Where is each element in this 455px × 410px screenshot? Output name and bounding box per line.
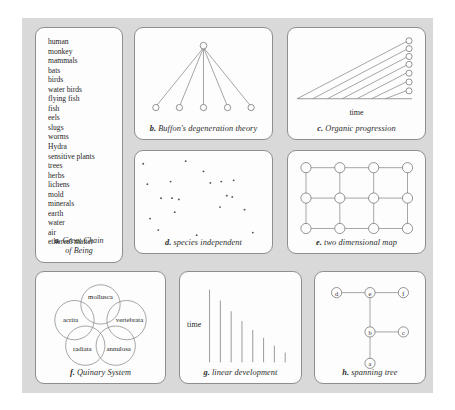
panel-d-species-independent: d.species independent <box>134 150 273 254</box>
tree-node-label-a: a <box>369 360 372 367</box>
scatter-point <box>233 179 235 181</box>
chain-list-item: minerals <box>48 199 122 209</box>
chain-list-item: sensitive plants <box>48 152 122 162</box>
panel-c-organic-progression: time c.Organic progression <box>287 27 426 140</box>
star-leaf-node <box>224 104 230 110</box>
lattice-node <box>369 223 379 233</box>
scatter-point <box>174 211 176 213</box>
lattice-node <box>402 223 412 233</box>
lattice-node <box>301 193 311 203</box>
chain-list-item: birds <box>48 75 122 85</box>
chain-list-item: human <box>48 37 122 47</box>
progression-node <box>406 38 412 44</box>
chain-list-item: mammals <box>48 56 122 66</box>
progression-node <box>406 88 412 94</box>
chain-list-item: earth <box>48 209 122 219</box>
chain-list-item: worms <box>48 132 122 142</box>
panel-g-linear-development: time g.linear development <box>179 271 302 384</box>
panel-e-caption-text: two dimensional map <box>324 238 397 247</box>
scatter-point <box>219 206 221 208</box>
scatter-point <box>226 195 228 197</box>
lattice-node <box>335 163 345 173</box>
quinary-label-radiata: radiata <box>73 345 92 352</box>
chain-list-item: fish <box>48 104 122 114</box>
progression-node <box>406 46 412 52</box>
scatter-point <box>149 218 151 220</box>
panel-d-caption: d.species independent <box>135 238 272 248</box>
scatter-point <box>244 209 246 211</box>
panel-a-great-chain-of-being: humanmonkeymammalsbatsbirdswater birdsfl… <box>35 27 123 263</box>
panel-a-label: a. <box>54 236 62 245</box>
star-leaf-node <box>248 104 254 110</box>
panel-h-caption: h.spanning tree <box>315 368 425 378</box>
lattice-node <box>402 193 412 203</box>
progression-nodes <box>406 38 412 94</box>
lattice-node <box>335 223 345 233</box>
panel-h-caption-text: spanning tree <box>351 368 397 377</box>
star-graph-svg <box>135 28 272 139</box>
lattice-edges <box>306 168 408 229</box>
great-chain-list: humanmonkeymammalsbatsbirdswater birdsfl… <box>36 37 122 247</box>
chain-list-item: bats <box>48 66 122 76</box>
quinary-label-mollusca: mollusca <box>88 293 113 300</box>
spanning-tree-svg: d e f b c a <box>315 272 425 383</box>
scatter-point <box>203 171 205 173</box>
bar-series <box>210 290 286 363</box>
panel-f-caption: f.Quinary System <box>36 368 165 378</box>
lattice-node <box>369 163 379 173</box>
scatter-points <box>142 160 254 236</box>
scatter-point <box>171 197 173 199</box>
panel-h-label: h. <box>342 368 351 377</box>
panel-d-caption-text: species independent <box>173 238 241 247</box>
quinary-label-acrita: acrita <box>63 316 78 323</box>
progression-node <box>406 61 412 67</box>
panel-f-quinary-system: mollusca acrita vertebrata radiata annul… <box>35 271 166 384</box>
chain-list-item: eels <box>48 113 122 123</box>
quinary-label-annulosa: annulosa <box>106 345 130 352</box>
lattice-node <box>301 223 311 233</box>
panel-c-axis-label: time <box>288 108 425 117</box>
figure-diagram-plate: humanmonkeymammalsbatsbirdswater birdsfl… <box>0 0 455 410</box>
scatter-point <box>160 197 162 199</box>
tree-node-label-e: e <box>369 290 372 297</box>
chain-list-item: trees <box>48 161 122 171</box>
star-leaf-node <box>200 104 206 110</box>
scatter-point <box>252 232 254 234</box>
panel-c-caption: c.Organic progression <box>288 124 425 134</box>
chain-list-item: slugs <box>48 123 122 133</box>
lattice-node <box>369 193 379 203</box>
star-leaf-node <box>176 104 182 110</box>
panel-b-caption-text: Buffon's degeneration theory <box>158 124 257 133</box>
lattice-node <box>335 193 345 203</box>
scatter-point <box>178 199 180 201</box>
chain-list-item: mold <box>48 190 122 200</box>
lattice-node <box>402 163 412 173</box>
panel-g-label: g. <box>203 368 211 377</box>
panel-g-caption: g.linear development <box>180 368 301 378</box>
progression-lines <box>297 42 406 99</box>
chain-list-item: herbs <box>48 171 122 181</box>
scatter-point <box>196 234 198 236</box>
panel-g-axis-label: time <box>187 320 201 329</box>
star-root-node <box>200 42 207 49</box>
scatter-point <box>157 229 159 231</box>
chain-list-item: flying fish <box>48 94 122 104</box>
progression-node <box>406 53 412 59</box>
panel-f-caption-text: Quinary System <box>77 368 131 377</box>
panel-b-caption: b.Buffon's degeneration theory <box>135 124 272 134</box>
panel-a-caption-line2: of Being <box>65 246 93 255</box>
chain-list-item: water birds <box>48 85 122 95</box>
tree-node-label-c: c <box>402 329 405 336</box>
panel-b-label: b. <box>150 124 158 133</box>
scatter-point <box>142 163 144 165</box>
scatter-point <box>209 182 211 184</box>
chain-list-item: lichens <box>48 180 122 190</box>
tree-node-label-b: b <box>368 329 371 336</box>
lattice-node <box>301 163 311 173</box>
panel-a-caption-line1: Great Chain <box>63 236 104 245</box>
panel-h-spanning-tree: d e f b c a h.spanning tree <box>314 271 426 384</box>
quinary-circles-svg: mollusca acrita vertebrata radiata annul… <box>36 272 165 383</box>
panel-c-caption-text: Organic progression <box>325 124 395 133</box>
progression-node <box>406 70 412 76</box>
chain-list-item: monkey <box>48 47 122 57</box>
